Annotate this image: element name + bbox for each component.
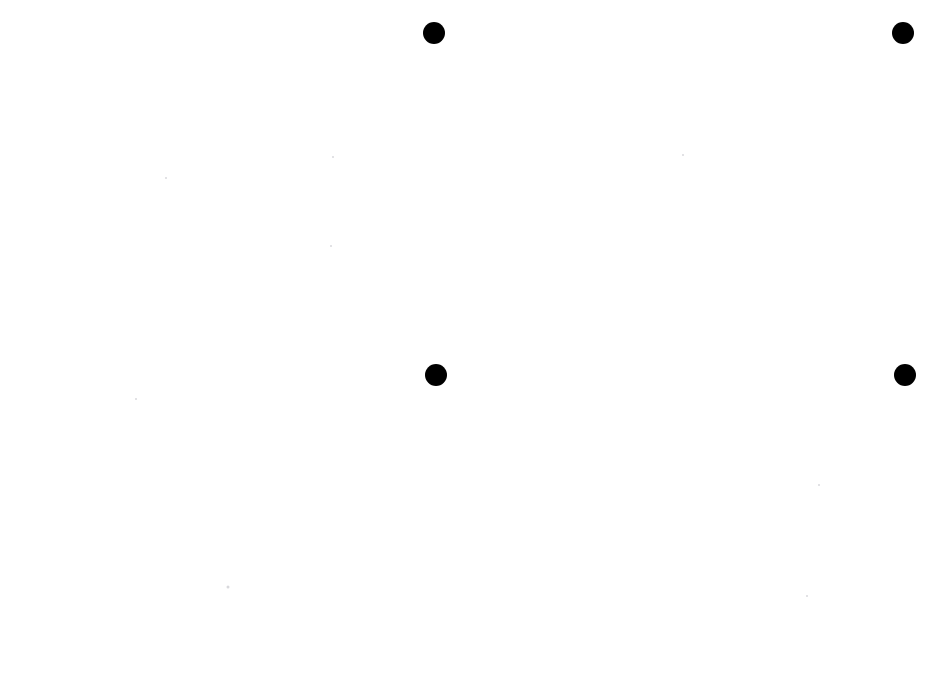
speck-low-right [806,595,808,597]
speck-left-band [135,398,137,400]
dot-top-right [892,22,914,44]
dot-top-left [423,22,445,44]
dot-bottom-left [425,364,447,386]
speck-upper-mid [332,156,334,158]
scanned-page [0,0,940,688]
speck-mid-left [165,177,167,179]
dot-bottom-right [894,364,916,386]
speck-right-band [818,484,820,486]
speck-upper-right [330,245,332,247]
page-surface [0,0,940,688]
speck-center [682,154,684,156]
speck-lower-left [227,586,230,589]
